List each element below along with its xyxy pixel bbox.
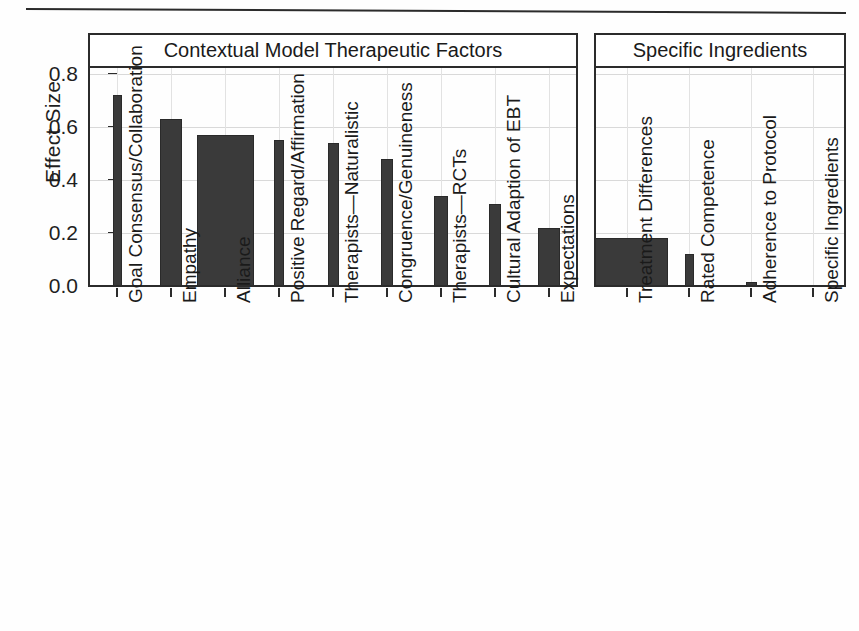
panel-title-right: Specific Ingredients xyxy=(633,39,808,62)
y-tick-label: 0.8 xyxy=(22,62,78,86)
x-tick-mark xyxy=(224,288,226,297)
x-tick-mark xyxy=(440,288,442,297)
gridline-horizontal xyxy=(596,127,844,128)
gridline-vertical xyxy=(813,68,814,285)
panel-title-strip-left: Contextual Model Therapeutic Factors xyxy=(90,35,576,68)
x-tick-mark xyxy=(494,288,496,297)
x-tick-label: Therapists—RCTs xyxy=(449,149,471,303)
x-tick-label: Rated Competence xyxy=(697,139,719,303)
figure-canvas: Effect Size 0.80.60.40.20.0 Contextual M… xyxy=(0,0,859,631)
x-tick-label: Congruence/Genuineness xyxy=(395,82,417,303)
x-tick-mark xyxy=(170,288,172,297)
panel-title-strip-right: Specific Ingredients xyxy=(596,35,844,68)
bar xyxy=(746,282,757,285)
bar xyxy=(685,254,694,285)
x-tick-label: Specific Ingredients xyxy=(821,137,843,303)
x-tick-mark xyxy=(116,288,118,297)
gridline-vertical xyxy=(751,68,752,285)
x-tick-label: Positive Regard/Affirmation xyxy=(287,73,309,303)
bar xyxy=(489,204,501,285)
gridline-vertical xyxy=(689,68,690,285)
x-tick-label: Cultural Adaption of EBT xyxy=(503,95,525,303)
x-tick-mark xyxy=(812,288,814,297)
x-tick-label: Alliance xyxy=(233,236,255,303)
x-tick-mark xyxy=(278,288,280,297)
x-tick-mark xyxy=(750,288,752,297)
x-tick-label: Goal Consensus/Collaboration xyxy=(125,45,147,303)
bar xyxy=(381,159,393,285)
page-top-rule xyxy=(26,8,846,14)
x-tick-mark xyxy=(386,288,388,297)
x-tick-mark xyxy=(332,288,334,297)
panel-title-left: Contextual Model Therapeutic Factors xyxy=(164,39,503,62)
y-axis-ticks: 0.80.60.40.20.0 xyxy=(22,0,78,631)
x-tick-label: Treatment Differences xyxy=(635,116,657,303)
y-tick-label: 0.0 xyxy=(22,274,78,298)
bar xyxy=(434,196,448,285)
plot-area-right xyxy=(596,68,844,285)
x-tick-mark xyxy=(626,288,628,297)
bar xyxy=(113,95,122,285)
y-tick-label: 0.6 xyxy=(22,115,78,139)
bar xyxy=(596,238,668,285)
y-tick-label: 0.2 xyxy=(22,221,78,245)
x-tick-label: Therapists—Naturalistic xyxy=(341,101,363,303)
gridline-horizontal xyxy=(596,180,844,181)
x-tick-label: Expectations xyxy=(557,194,579,303)
x-tick-label: Adherence to Protocol xyxy=(759,115,781,303)
x-tick-mark xyxy=(688,288,690,297)
panel-specific-ingredients: Specific Ingredients xyxy=(594,33,846,287)
bar xyxy=(274,140,284,285)
gridline-horizontal xyxy=(596,233,844,234)
bar xyxy=(328,143,339,285)
y-tick-label: 0.4 xyxy=(22,168,78,192)
x-tick-mark xyxy=(548,288,550,297)
gridline-horizontal xyxy=(596,74,844,75)
x-tick-label: Empathy xyxy=(179,228,201,303)
